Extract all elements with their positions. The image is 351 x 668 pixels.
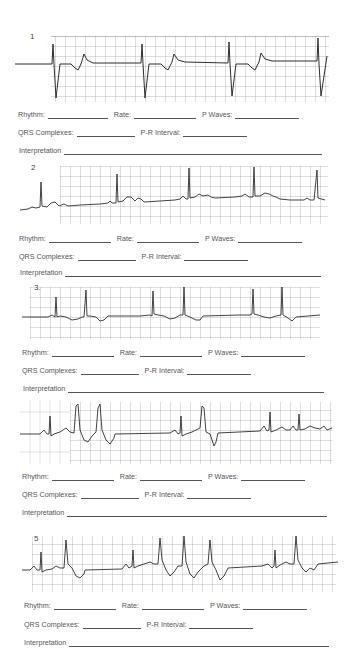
form-row-qrs: QRS Complexes: P-R Interval:: [22, 490, 251, 499]
form-row-rate: Rhythm: Rate: P Waves:: [22, 348, 305, 357]
interpretation-field[interactable]: [67, 510, 327, 517]
interpretation-field[interactable]: [65, 270, 321, 277]
qrs-label: QRS Complexes:: [19, 252, 75, 261]
rate-field[interactable]: [140, 350, 202, 357]
ecg-grid: [51, 36, 329, 102]
form-row-interpretation: Interpretation: [20, 268, 321, 277]
rate-field[interactable]: [142, 603, 204, 610]
interpretation-field[interactable]: [69, 640, 329, 647]
p-waves-label: P Waves:: [208, 348, 238, 357]
qrs-field[interactable]: [77, 130, 135, 137]
pr-interval-field[interactable]: [187, 368, 251, 375]
rhythm-field[interactable]: [49, 236, 111, 243]
rhythm-label: Rhythm:: [24, 601, 51, 610]
p-waves-field[interactable]: [238, 236, 302, 243]
form-row-interpretation: Interpretation: [19, 146, 322, 155]
pr-interval-label: P-R Interval:: [145, 366, 185, 375]
rhythm-label: Rhythm:: [22, 472, 49, 481]
rhythm-label: Rhythm:: [22, 348, 49, 357]
p-waves-label: P Waves:: [208, 472, 238, 481]
form-row-rate: Rhythm: Rate: P Waves:: [18, 110, 299, 119]
pr-interval-field[interactable]: [184, 254, 248, 261]
p-waves-field[interactable]: [235, 112, 299, 119]
qrs-label: QRS Complexes:: [22, 490, 78, 499]
rate-field[interactable]: [137, 236, 199, 243]
ecg-strip-3: [20, 287, 330, 341]
interpretation-label: Interpretation: [20, 268, 62, 277]
rate-label: Rate:: [122, 601, 139, 610]
ecg-strip-1: [15, 36, 330, 104]
pr-interval-field[interactable]: [183, 130, 247, 137]
ecg-strip-5: [22, 534, 338, 594]
rate-field[interactable]: [140, 474, 202, 481]
interpretation-label: Interpretation: [19, 146, 61, 155]
rate-field[interactable]: [134, 112, 196, 119]
rhythm-field[interactable]: [52, 474, 114, 481]
form-row-interpretation: Interpretation: [23, 384, 324, 393]
p-waves-label: P Waves:: [205, 234, 235, 243]
form-row-interpretation: Interpretation: [22, 508, 327, 517]
form-row-interpretation: Interpretation: [24, 638, 329, 647]
qrs-label: QRS Complexes:: [18, 128, 74, 137]
ecg-grid: [70, 402, 332, 464]
p-waves-field[interactable]: [241, 350, 305, 357]
qrs-label: QRS Complexes:: [22, 366, 78, 375]
interpretation-field[interactable]: [68, 386, 324, 393]
form-row-qrs: QRS Complexes: P-R Interval:: [22, 366, 251, 375]
interpretation-field[interactable]: [64, 148, 322, 155]
rhythm-label: Rhythm:: [18, 110, 45, 119]
qrs-field[interactable]: [78, 254, 136, 261]
ecg-strip-4: [20, 400, 335, 466]
p-waves-label: P Waves:: [202, 110, 232, 119]
form-row-qrs: QRS Complexes: P-R Interval:: [19, 252, 248, 261]
form-row-rate: Rhythm: Rate: P Waves:: [19, 234, 302, 243]
interpretation-label: Interpretation: [23, 384, 65, 393]
form-row-qrs: QRS Complexes: P-R Interval:: [18, 128, 247, 137]
qrs-field[interactable]: [83, 622, 141, 629]
ecg-grid: [60, 166, 328, 224]
pr-interval-label: P-R Interval:: [142, 252, 182, 261]
pr-interval-field[interactable]: [187, 492, 251, 499]
rate-label: Rate:: [120, 348, 137, 357]
interpretation-label: Interpretation: [22, 508, 64, 517]
form-row-rate: Rhythm: Rate: P Waves:: [22, 472, 305, 481]
rhythm-field[interactable]: [48, 112, 108, 119]
rhythm-field[interactable]: [54, 603, 116, 610]
pr-interval-field[interactable]: [189, 622, 253, 629]
qrs-field[interactable]: [81, 492, 139, 499]
qrs-field[interactable]: [81, 368, 139, 375]
form-row-qrs: QRS Complexes: P-R Interval:: [24, 620, 253, 629]
pr-interval-label: P-R Interval:: [147, 620, 187, 629]
rhythm-label: Rhythm:: [19, 234, 46, 243]
qrs-label: QRS Complexes:: [24, 620, 80, 629]
rate-label: Rate:: [117, 234, 134, 243]
pr-interval-label: P-R Interval:: [141, 128, 181, 137]
rhythm-field[interactable]: [52, 350, 114, 357]
form-row-rate: Rhythm: Rate: P Waves:: [24, 601, 307, 610]
ecg-strip-2: [20, 166, 330, 228]
pr-interval-label: P-R Interval:: [145, 490, 185, 499]
rate-label: Rate:: [114, 110, 131, 119]
p-waves-field[interactable]: [243, 603, 307, 610]
rate-label: Rate:: [120, 472, 137, 481]
ecg-grid: [30, 287, 320, 339]
p-waves-field[interactable]: [241, 474, 305, 481]
interpretation-label: Interpretation: [24, 638, 66, 647]
p-waves-label: P Waves:: [210, 601, 240, 610]
